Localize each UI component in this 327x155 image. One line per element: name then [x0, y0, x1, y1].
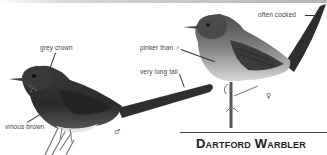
label-very-long-tail: very long tail	[140, 68, 178, 75]
species-title: Dartford Warbler	[196, 136, 306, 151]
label-pinker-than-male: pinker than ♂	[140, 44, 180, 51]
male-symbol: ♂	[114, 128, 120, 136]
label-often-cocked: often cocked	[258, 11, 296, 18]
female-symbol: ♀	[266, 92, 271, 100]
female-bird	[183, 4, 326, 128]
leader-often-cocked	[305, 15, 315, 16]
label-grey-crown: grey crown	[40, 44, 73, 51]
title-rule	[180, 132, 327, 133]
male-bird	[9, 66, 213, 155]
label-vinous-brown: vinous brown	[5, 123, 45, 130]
